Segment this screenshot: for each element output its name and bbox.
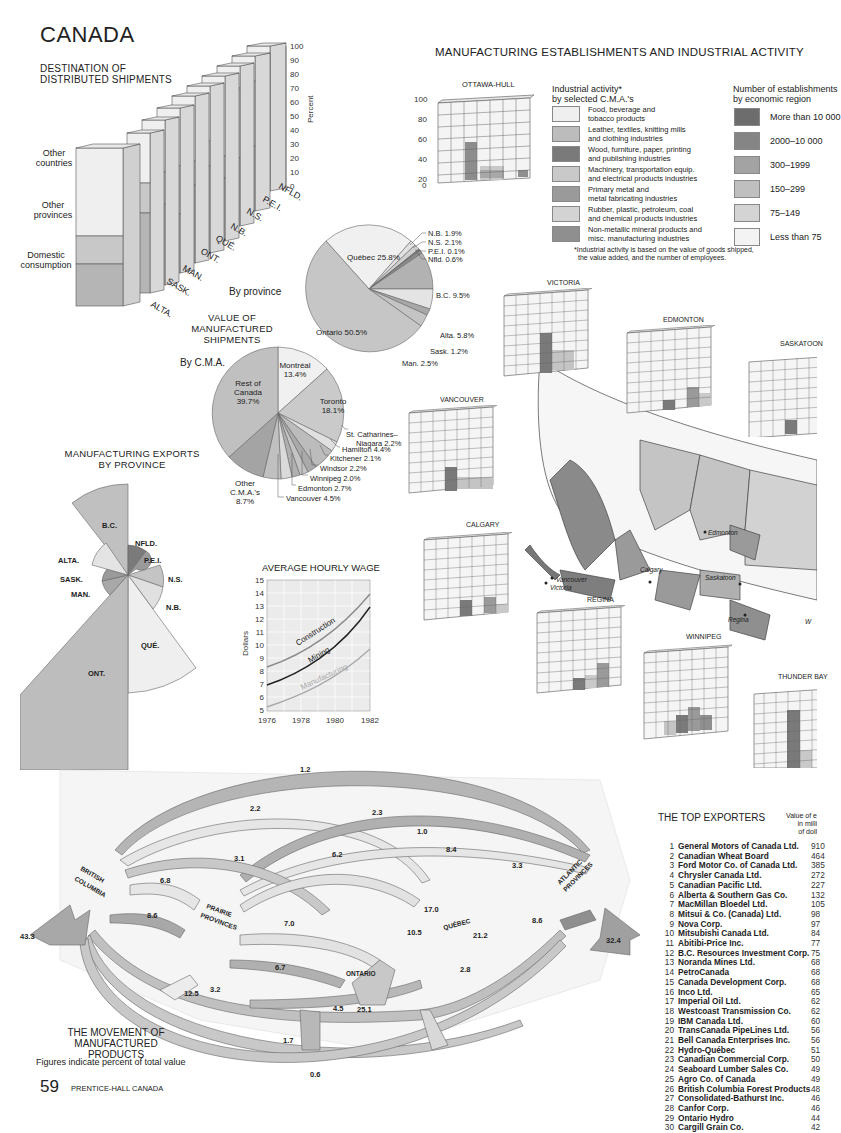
legend-title-line: by economic region: [733, 94, 838, 104]
legend-label: Leather, textiles, knitting millsand clo…: [588, 126, 686, 143]
movement-title: THE MOVEMENT OF MANUFACTURED PRODUCTS: [46, 1027, 186, 1060]
exporter-name: General Motors of Canada Ltd.: [678, 842, 811, 852]
exporter-name: Ford Motor Co. of Canada Ltd.: [678, 861, 811, 871]
exporter-name: Hydro-Québec: [678, 1046, 811, 1056]
exporter-name: Seaboard Lumber Sales Co.: [678, 1065, 811, 1075]
svg-text:8: 8: [260, 667, 265, 676]
legend-item-leather: Leather, textiles, knitting millsand clo…: [552, 126, 737, 143]
svg-text:80: 80: [290, 70, 299, 79]
flow-6.7: 6.7: [275, 963, 285, 972]
exporter-name: Canada Development Corp.: [678, 978, 811, 988]
exporter-name: TransCanada PipeLines Ltd.: [678, 1026, 811, 1036]
cma-label-vancouver: Vancouver 4.5%: [286, 494, 341, 503]
svg-text:39.7%: 39.7%: [237, 397, 260, 406]
table-row: 13Noranda Mines Ltd.68: [660, 958, 831, 968]
legend-line: tobacco products: [588, 115, 655, 124]
exporter-value: 42: [811, 1123, 831, 1133]
city-chart-victoria: [502, 288, 597, 378]
map-label-saskatoon: Saskatoon: [705, 574, 736, 581]
title-line: THE MOVEMENT OF: [46, 1027, 186, 1038]
label-text: countries: [34, 158, 74, 168]
publisher: PRENTICE-HALL CANADA: [71, 1084, 163, 1093]
legend-label: More than 10 000: [770, 112, 841, 122]
header-line: of doll: [782, 828, 817, 836]
table-row: 10Mitsubishi Canada Ltd.84: [660, 929, 831, 939]
exporter-name: British Columbia Forest Products: [678, 1085, 811, 1095]
legend-label: Primary metal andmetal fabricating indus…: [588, 186, 677, 203]
table-row: 14PetroCanada68: [660, 968, 831, 978]
table-row: 18Westcoast Transmission Co.62: [660, 1007, 831, 1017]
map-label-edmonton: Edmonton: [708, 529, 738, 536]
table-row: 12B.C. Resources Investment Corp.75: [660, 949, 831, 959]
city-chart-thunder-bay: [752, 688, 817, 768]
est-legend-item: Less than 75: [734, 228, 841, 246]
table-row: 28Canfor Corp.46: [660, 1104, 831, 1114]
svg-text:14: 14: [255, 589, 264, 598]
table-row: 30Cargill Grain Co.42: [660, 1123, 831, 1133]
exporter-name: Nova Corp.: [678, 920, 811, 930]
pie-province-callouts: N.B. 1.9% N.S. 2.1% P.E.I. 0.1% Nfld. 0.…: [410, 220, 490, 360]
table-row: 7MacMillan Bloedel Ltd.105: [660, 900, 831, 910]
exporter-name: Cargill Grain Co.: [678, 1123, 811, 1133]
est-legend-item: 2000–10 000: [734, 132, 841, 150]
footnote-line: *Industrial activity is based on the val…: [574, 246, 754, 254]
label-domestic: Domestic consumption: [16, 250, 76, 270]
legend-line: misc. manufacturing industries: [588, 235, 702, 244]
flow-2.3: 2.3: [372, 808, 382, 817]
flow-8.6-atl: 8.6: [532, 916, 542, 925]
flow-32.4: 32.4: [606, 936, 621, 945]
svg-text:1980: 1980: [326, 716, 344, 725]
cma-label-winnipeg: Winnipeg 2.0%: [310, 474, 361, 483]
label-text: consumption: [16, 260, 76, 270]
flow-25.1: 25.1: [357, 1005, 372, 1014]
table-row: 6Alberta & Southern Gas Co.132: [660, 891, 831, 901]
city-title-victoria: VICTORIA: [547, 279, 580, 287]
est-legend-title: Number of establishments by economic reg…: [733, 84, 838, 104]
city-chart-winnipeg: [642, 643, 737, 743]
flow-10.5: 10.5: [407, 928, 422, 937]
flow-7.0: 7.0: [284, 919, 294, 928]
map-label-victoria: Victoria: [550, 584, 572, 591]
svg-text:11: 11: [256, 628, 265, 637]
svg-text:6: 6: [260, 693, 265, 702]
activity-footnote: *Industrial activity is based on the val…: [574, 246, 754, 262]
map-label-calgary: Calgary: [640, 566, 663, 574]
pie-label-nfld: Nfld. 0.6%: [428, 255, 463, 264]
flow-21.2: 21.2: [473, 931, 488, 940]
export-label-nfld: NFLD.: [135, 539, 157, 548]
svg-text:60: 60: [418, 135, 427, 144]
svg-text:13: 13: [255, 602, 264, 611]
label-text: Other: [34, 148, 74, 158]
flow-6.2: 6.2: [332, 850, 342, 859]
table-row: 1General Motors of Canada Ltd.910: [660, 842, 831, 852]
export-label-man: MAN.: [71, 590, 90, 599]
svg-text:Canada: Canada: [234, 388, 263, 397]
legend-swatch: [734, 108, 760, 126]
table-row: 20TransCanada PipeLines Ltd.56: [660, 1026, 831, 1036]
cma-label-edmonton: Edmonton 2.7%: [298, 484, 352, 493]
wage-title: AVERAGE HOURLY WAGE: [262, 562, 380, 573]
flow-3.3: 3.3: [512, 861, 522, 870]
table-row: 5Canadian Pacific Ltd.227: [660, 881, 831, 891]
exporter-name: Canfor Corp.: [678, 1104, 811, 1114]
legend-swatch: [734, 156, 760, 174]
exporter-name: IBM Canada Ltd.: [678, 1017, 811, 1027]
exporters-value-header: Value of e in milli of doll: [782, 812, 817, 836]
exports-polar-chart: B.C. NFLD. P.E.I. N.S. N.B. QUÉ. ONT. MA…: [20, 470, 200, 770]
flow-17.0: 17.0: [424, 905, 439, 914]
legend-swatch: [552, 166, 580, 182]
table-row: 19IBM Canada Ltd.60: [660, 1017, 831, 1027]
city-chart-edmonton: [625, 325, 720, 415]
exporter-name: Canadian Wheat Board: [678, 852, 811, 862]
legend-label: Rubber, plastic, petroleum, coaland chem…: [588, 206, 697, 223]
legend-title-line: Number of establishments: [733, 84, 838, 94]
pie-label-alta: Alta. 5.8%: [440, 331, 475, 340]
legend-line: and electrical products industries: [588, 175, 697, 184]
legend-swatch: [552, 206, 580, 222]
table-row: 21Bell Canada Enterprises Inc.56: [660, 1036, 831, 1046]
svg-text:40: 40: [290, 126, 299, 135]
export-label-pei: P.E.I.: [144, 556, 161, 565]
table-row: 11Abitibi-Price Inc.77: [660, 939, 831, 949]
exporter-name: Mitsubishi Canada Ltd.: [678, 929, 811, 939]
export-label-alta: ALTA.: [58, 556, 79, 565]
